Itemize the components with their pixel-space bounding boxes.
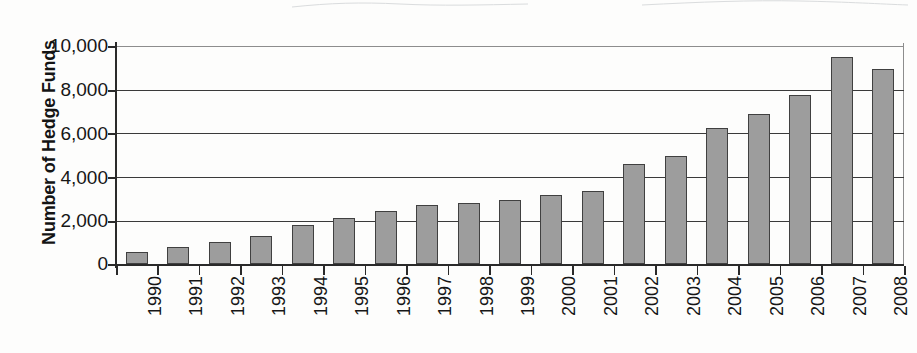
bar [540,195,562,264]
y-tick-label: 0 [12,253,108,275]
x-tick-mark [821,266,823,275]
bar [333,218,355,264]
x-tick-mark [863,266,865,275]
x-tick-label: 2004 [725,276,746,346]
x-tick-label: 2005 [767,276,788,346]
bar [831,57,853,264]
x-tick-mark [116,266,118,275]
x-tick-mark [780,266,782,275]
x-tick-mark [697,266,699,275]
scan-artifact-right [640,0,910,6]
x-tick-label: 2001 [601,276,622,346]
x-tick-mark [157,266,159,275]
x-tick-mark [531,266,533,275]
bar [209,242,231,264]
x-tick-mark [365,266,367,275]
x-tick-mark [614,266,616,275]
y-tick-label: 2,000 [12,210,108,232]
x-tick-label: 1991 [186,276,207,346]
x-tick-mark [406,266,408,275]
x-tick-label: 1998 [477,276,498,346]
x-tick-mark [655,266,657,275]
y-tick-label: 6,000 [12,123,108,145]
x-tick-label: 2000 [559,276,580,346]
x-tick-label: 2007 [850,276,871,346]
bar [789,95,811,264]
bar [582,191,604,264]
x-tick-mark [240,266,242,275]
y-tick-label: 8,000 [12,79,108,101]
bar-chart: Number of Hedge Funds 10,000 8,000 6,000… [0,0,917,353]
bar [250,236,272,264]
x-tick-label: 1990 [145,276,166,346]
y-axis-tick-labels: 10,000 8,000 6,000 4,000 2,000 0 [0,0,108,353]
bar [126,252,148,264]
x-tick-mark [282,266,284,275]
x-tick-mark [199,266,201,275]
bar [872,69,894,264]
bar [167,247,189,264]
plot-area [116,46,904,264]
x-tick-mark [448,266,450,275]
bar [458,203,480,264]
bar-series [116,46,904,264]
bar [748,114,770,264]
x-tick-label: 1996 [394,276,415,346]
bar [706,128,728,264]
x-tick-label: 1999 [518,276,539,346]
y-tick-label: 4,000 [12,167,108,189]
x-tick-label: 1993 [269,276,290,346]
x-tick-label: 1995 [352,276,373,346]
bar [292,225,314,264]
y-tick-label: 10,000 [12,35,108,57]
x-tick-label: 1994 [311,276,332,346]
x-tick-mark [572,266,574,275]
x-tick-mark [738,266,740,275]
x-tick-mark [489,266,491,275]
x-tick-mark [904,266,906,275]
x-tick-label: 1997 [435,276,456,346]
bar [623,164,645,264]
x-axis-line [110,264,904,266]
x-tick-label: 2002 [642,276,663,346]
x-tick-label: 1992 [228,276,249,346]
bar [416,205,438,264]
bar [665,156,687,264]
x-axis-tick-labels: 1990199119921993199419951996199719981999… [116,276,904,346]
scan-artifact-left [290,2,530,8]
x-tick-label: 2008 [891,276,912,346]
x-tick-label: 2006 [808,276,829,346]
x-tick-label: 2003 [684,276,705,346]
bar [375,211,397,264]
x-tick-mark [323,266,325,275]
bar [499,200,521,264]
